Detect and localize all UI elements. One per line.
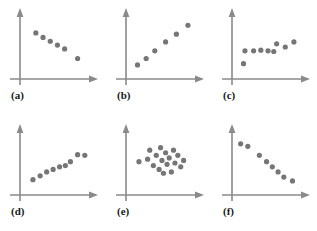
data-points-c xyxy=(241,39,297,66)
data-point xyxy=(270,164,275,169)
data-point xyxy=(245,144,250,149)
axes-a xyxy=(10,8,98,85)
data-point xyxy=(251,48,256,53)
data-points-a xyxy=(33,30,80,61)
data-point xyxy=(264,159,269,164)
axes-d xyxy=(10,124,98,201)
data-point xyxy=(75,152,80,157)
data-point xyxy=(283,44,288,49)
data-point xyxy=(55,42,60,47)
panel-d: (d) xyxy=(0,116,105,231)
data-point xyxy=(172,160,177,165)
data-points-e xyxy=(136,145,186,176)
data-point xyxy=(163,150,168,155)
data-point xyxy=(274,41,279,46)
data-point xyxy=(157,167,162,172)
data-points-d xyxy=(30,152,87,182)
data-point xyxy=(291,39,296,44)
data-point xyxy=(144,56,149,61)
panel-label-c: (c) xyxy=(223,90,235,101)
data-point xyxy=(68,159,73,164)
data-point xyxy=(161,171,166,176)
data-point xyxy=(152,48,157,53)
data-point xyxy=(136,159,141,164)
axes-c xyxy=(222,8,310,85)
panel-e: (e) xyxy=(106,116,211,231)
data-point xyxy=(48,39,53,44)
data-point xyxy=(175,153,180,158)
data-point xyxy=(40,35,45,40)
data-point xyxy=(174,32,179,37)
panel-label-d: (d) xyxy=(11,206,24,217)
data-point xyxy=(171,148,176,153)
panel-label-b: (b) xyxy=(117,90,130,101)
data-point xyxy=(154,153,159,158)
data-point xyxy=(167,155,172,160)
scatterplot-figure: (a) (b) (c) xyxy=(0,0,317,231)
axes-e xyxy=(116,124,204,201)
data-point xyxy=(63,163,68,168)
axes-b xyxy=(116,8,204,85)
data-point xyxy=(33,30,38,35)
data-point xyxy=(181,158,186,163)
data-point xyxy=(185,23,190,28)
panel-c: (c) xyxy=(212,0,317,115)
panel-label-a: (a) xyxy=(11,90,24,101)
data-point xyxy=(164,162,169,167)
data-point xyxy=(30,177,35,182)
data-point xyxy=(242,48,247,53)
data-point xyxy=(275,169,280,174)
data-point xyxy=(265,48,270,53)
data-point xyxy=(75,56,80,61)
data-point xyxy=(44,169,49,174)
data-point xyxy=(135,62,140,67)
data-point xyxy=(241,61,246,66)
data-point xyxy=(271,49,276,54)
data-point xyxy=(62,46,67,51)
data-point xyxy=(178,164,183,169)
data-point xyxy=(51,167,56,172)
data-point xyxy=(57,164,62,169)
data-point xyxy=(169,169,174,174)
data-point xyxy=(281,174,286,179)
data-point xyxy=(151,163,156,168)
data-point xyxy=(238,141,243,146)
panel-a: (a) xyxy=(0,0,105,115)
panel-label-e: (e) xyxy=(117,206,129,217)
panel-label-f: (f) xyxy=(223,206,234,217)
data-point xyxy=(163,39,168,44)
data-point xyxy=(290,178,295,183)
data-points-b xyxy=(135,23,191,68)
data-point xyxy=(38,173,43,178)
data-point xyxy=(258,48,263,53)
data-point xyxy=(158,145,163,150)
data-point xyxy=(257,153,262,158)
data-points-f xyxy=(238,141,295,183)
data-point xyxy=(82,153,87,158)
panel-b: (b) xyxy=(106,0,211,115)
data-point xyxy=(145,157,150,162)
data-point xyxy=(147,148,152,153)
panel-f: (f) xyxy=(212,116,317,231)
data-point xyxy=(159,158,164,163)
